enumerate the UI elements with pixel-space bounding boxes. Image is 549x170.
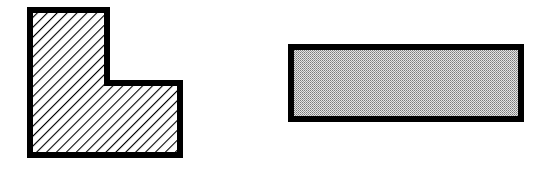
l-shape bbox=[30, 10, 180, 155]
diagram-canvas bbox=[0, 0, 549, 170]
rectangle bbox=[291, 47, 521, 119]
